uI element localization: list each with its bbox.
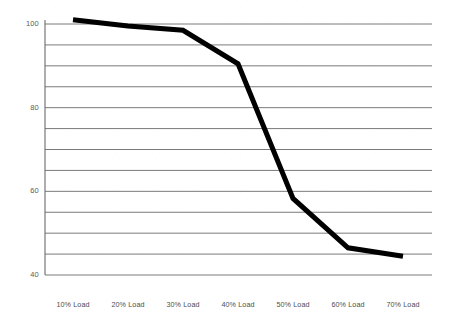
x-tick-label: 20% Load: [111, 300, 144, 309]
x-tick-label: 30% Load: [166, 300, 199, 309]
line-chart: 100806040 10% Load20% Load30% Load40% Lo…: [0, 0, 458, 326]
x-tick-label: 50% Load: [276, 300, 309, 309]
x-tick-label: 40% Load: [221, 300, 254, 309]
y-tick-label: 40: [13, 271, 39, 279]
y-tick-label: 80: [13, 104, 39, 112]
series-polyline: [73, 20, 403, 256]
data-series-line: [73, 20, 403, 256]
y-tick-label: 60: [13, 187, 39, 195]
x-tick-label: 60% Load: [331, 300, 364, 309]
chart-plot-area: [0, 0, 458, 326]
x-tick-label: 70% Load: [386, 300, 419, 309]
x-tick-label: 10% Load: [56, 300, 89, 309]
y-tick-label: 100: [13, 20, 39, 28]
